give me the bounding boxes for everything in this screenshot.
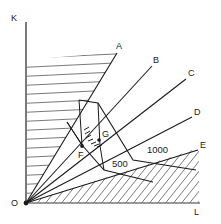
isoquant-label-1000: 1000 xyxy=(147,145,168,155)
l-axis-label: L xyxy=(194,208,199,217)
ray-b xyxy=(26,66,152,203)
ray-label-e: E xyxy=(200,141,206,150)
isoquant-label-500: 500 xyxy=(112,159,128,169)
ray-label-d: D xyxy=(194,108,201,117)
point-f-marker xyxy=(80,144,84,148)
diagram-canvas xyxy=(0,0,221,224)
connector-left xyxy=(79,100,82,145)
origin-label: O xyxy=(11,199,18,208)
point-label-g: G xyxy=(102,130,109,139)
ray-c xyxy=(26,79,186,203)
ray-label-b: B xyxy=(153,56,159,65)
ray-label-a: A xyxy=(116,42,122,51)
origin-marker xyxy=(24,201,29,206)
ray-label-c: C xyxy=(188,69,195,78)
isoquant-1000 xyxy=(79,100,196,170)
point-g-marker xyxy=(97,138,101,142)
connector-upper-left xyxy=(67,122,82,145)
k-axis-label: K xyxy=(11,14,17,23)
point-label-f: F xyxy=(78,151,84,160)
isoquant-diagram: K L O A B C D E F G 500 1000 xyxy=(0,0,221,224)
